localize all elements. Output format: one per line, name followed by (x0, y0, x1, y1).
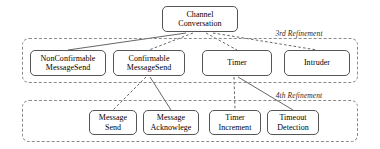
node-message-acknowlege[interactable]: Message Acknowlege (143, 110, 199, 135)
node-label: Timer (225, 58, 249, 67)
group-label-fourth-refinement: 4th Refinement (276, 91, 323, 100)
node-timer-increment[interactable]: Timer Increment (209, 110, 261, 135)
node-intruder[interactable]: Intruder (284, 50, 350, 76)
refinement-diagram: 3rd Refinement 4th Refinement Channel Co… (0, 0, 380, 149)
node-confirmable-messagesend[interactable]: Confirmable MessageSend (113, 50, 185, 76)
node-label: Message Send (97, 113, 129, 132)
node-label: Intruder (302, 58, 332, 67)
node-label: Channel Conversation (176, 10, 223, 29)
node-label: NonConfirmable MessageSend (39, 54, 98, 73)
node-message-send[interactable]: Message Send (89, 110, 137, 135)
node-label: Confirmable MessageSend (125, 54, 174, 73)
node-timeout-detection[interactable]: Timeout Detection (267, 110, 319, 135)
node-label: Timeout Detection (275, 113, 311, 132)
group-label-third-refinement: 3rd Refinement (275, 29, 322, 38)
node-label: Timer Increment (217, 113, 254, 132)
node-channel-conversation[interactable]: Channel Conversation (162, 6, 238, 32)
node-label: Message Acknowlege (149, 113, 194, 132)
node-nonconfirmable-messagesend[interactable]: NonConfirmable MessageSend (30, 50, 106, 76)
node-timer[interactable]: Timer (202, 50, 272, 76)
